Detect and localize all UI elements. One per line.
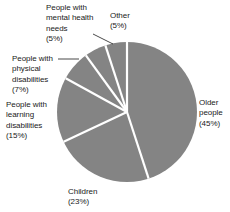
pie-label-older-people: Older people (45%) [199, 98, 223, 129]
pie-label-children: Children (23%) [68, 187, 97, 208]
pie-label-physical-disabilities: People with physical disabilities (7%) [12, 54, 53, 96]
pie-chart-figure: People with mental health needs (5%) Oth… [0, 0, 230, 212]
pie-label-other: Other (5%) [110, 11, 130, 32]
pie-label-learning-disabilities: People with learning disabilities (15%) [6, 100, 47, 142]
leader-line-mental [93, 34, 113, 44]
pie-label-mental-health: People with mental health needs (5%) [46, 3, 93, 45]
